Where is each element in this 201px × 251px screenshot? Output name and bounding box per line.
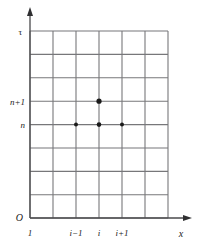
x-tick-label-i-plus-1: i+1	[115, 228, 128, 238]
y-tick-label-n-plus-1: n+1	[10, 97, 25, 107]
y-axis-arrowhead	[27, 7, 33, 16]
point-im1-n	[74, 123, 78, 127]
x-axis-tick-labels: 1 i−1 i i+1	[28, 228, 129, 238]
x-axis-arrowhead	[183, 215, 192, 221]
y-tick-label-n: n	[21, 120, 26, 130]
axes	[27, 7, 192, 221]
x-tick-label-i: i	[98, 228, 101, 238]
point-i-np1	[96, 99, 101, 104]
x-tick-label-i-minus-1: i−1	[69, 228, 82, 238]
point-ip1-n	[120, 123, 124, 127]
x-tick-label-1: 1	[28, 228, 33, 238]
x-axis-label: x	[178, 228, 184, 239]
stencil-diagram: τ n+1 n 1 i−1 i i+1 O x	[0, 0, 201, 251]
origin-label: O	[16, 212, 23, 223]
point-i-n	[97, 122, 102, 127]
figure-container: τ n+1 n 1 i−1 i i+1 O x	[0, 0, 201, 251]
y-axis-tick-labels: τ n+1 n	[10, 27, 26, 130]
y-axis-label-tau: τ	[18, 27, 22, 37]
